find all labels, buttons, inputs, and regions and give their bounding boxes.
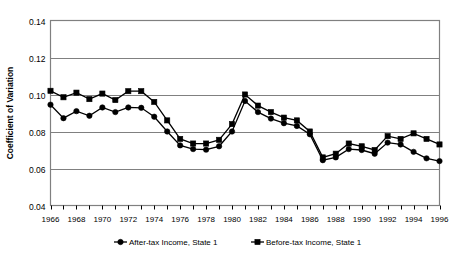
x-axis-tick-label: 1970 <box>93 215 111 224</box>
data-point-marker <box>126 89 131 94</box>
data-point-marker <box>346 146 351 151</box>
data-point-marker <box>437 142 442 147</box>
x-axis-ticks <box>52 206 441 210</box>
data-point-marker <box>268 109 273 114</box>
y-axis-tick-label: 0.12 <box>29 54 46 64</box>
y-axis-tick-label: 0.10 <box>29 91 46 101</box>
series-1 <box>48 98 442 164</box>
data-point-marker <box>229 122 234 127</box>
chart-legend: After-tax Income, State 1Before-tax Inco… <box>114 238 362 247</box>
x-axis-tick-label: 1974 <box>145 215 163 224</box>
legend-item-2: Before-tax Income, State 1 <box>251 238 362 247</box>
y-axis-title: Coefficient of Variation <box>5 67 15 160</box>
plot-frame <box>51 21 440 206</box>
data-point-marker <box>203 147 208 152</box>
data-point-marker <box>242 92 247 97</box>
x-axis-tick-label: 1972 <box>119 215 137 224</box>
legend-item-1: After-tax Income, State 1 <box>114 238 218 247</box>
data-point-marker <box>177 143 182 148</box>
x-axis-tick-label: 1968 <box>68 215 86 224</box>
data-point-marker <box>255 109 260 114</box>
y-axis-tick-label: 0.14 <box>29 17 46 27</box>
data-point-marker <box>398 136 403 141</box>
chart-plot-area: 0.140.120.100.080.060.04 196619681970197… <box>0 0 457 264</box>
data-point-marker <box>190 146 195 151</box>
data-point-marker <box>191 141 196 146</box>
data-point-marker <box>229 129 234 134</box>
x-axis-tick-label: 1980 <box>223 215 241 224</box>
data-point-marker <box>165 118 170 123</box>
data-point-marker <box>255 103 260 108</box>
x-axis-tick-label: 1996 <box>431 215 449 224</box>
data-point-marker <box>152 99 157 104</box>
data-point-marker <box>385 134 390 139</box>
gridlines-group <box>51 59 440 170</box>
data-point-marker <box>61 115 66 120</box>
data-point-marker <box>398 142 403 147</box>
data-point-marker <box>126 105 131 110</box>
data-series-layer <box>48 88 442 164</box>
data-point-marker <box>113 109 118 114</box>
data-point-marker <box>139 89 144 94</box>
line-chart-svg: 0.140.120.100.080.060.04 196619681970197… <box>0 0 457 264</box>
x-axis-tick-label: 1992 <box>379 215 397 224</box>
chart-container: 0.140.120.100.080.060.04 196619681970197… <box>0 0 457 264</box>
data-point-marker <box>411 131 416 136</box>
data-point-marker <box>113 97 118 102</box>
data-point-marker <box>437 158 442 163</box>
data-point-marker <box>61 95 66 100</box>
y-axis-tick-label: 0.04 <box>29 202 46 212</box>
data-point-marker <box>307 129 312 134</box>
x-axis-tick-label: 1994 <box>405 215 423 224</box>
x-axis-tick-labels: 1966196819701972197419761978198019821984… <box>42 215 449 224</box>
data-point-marker <box>294 118 299 123</box>
y-axis-tick-labels: 0.140.120.100.080.060.04 <box>29 17 46 212</box>
data-point-marker <box>424 156 429 161</box>
data-point-marker <box>100 105 105 110</box>
x-axis-tick-label: 1966 <box>42 215 60 224</box>
data-point-marker <box>424 136 429 141</box>
data-point-marker <box>74 90 79 95</box>
legend-marker <box>118 239 123 244</box>
data-point-marker <box>74 108 79 113</box>
data-point-marker <box>165 129 170 134</box>
x-axis-tick-label: 1986 <box>301 215 319 224</box>
x-axis-tick-label: 1976 <box>171 215 189 224</box>
data-point-marker <box>281 120 286 125</box>
series-line <box>51 101 440 161</box>
data-point-marker <box>385 140 390 145</box>
legend-label: Before-tax Income, State 1 <box>266 238 362 247</box>
data-point-marker <box>216 137 221 142</box>
data-point-marker <box>411 149 416 154</box>
data-point-marker <box>204 141 209 146</box>
y-axis-tick-label: 0.08 <box>29 128 46 138</box>
data-point-marker <box>281 115 286 120</box>
data-point-marker <box>139 105 144 110</box>
data-point-marker <box>178 136 183 141</box>
legend-marker <box>255 239 260 244</box>
data-point-marker <box>359 144 364 149</box>
data-point-marker <box>152 114 157 119</box>
data-point-marker <box>294 123 299 128</box>
data-point-marker <box>87 113 92 118</box>
x-axis-tick-label: 1984 <box>275 215 293 224</box>
data-point-marker <box>346 141 351 146</box>
data-point-marker <box>320 155 325 160</box>
data-point-marker <box>216 144 221 149</box>
x-axis-tick-label: 1982 <box>249 215 267 224</box>
legend-label: After-tax Income, State 1 <box>129 238 218 247</box>
data-point-marker <box>372 147 377 152</box>
data-point-marker <box>48 88 53 93</box>
x-axis-tick-label: 1978 <box>197 215 215 224</box>
data-point-marker <box>268 116 273 121</box>
x-axis-tick-label: 1988 <box>327 215 345 224</box>
data-point-marker <box>87 97 92 102</box>
y-axis-tick-label: 0.06 <box>29 165 46 175</box>
data-point-marker <box>100 91 105 96</box>
data-point-marker <box>333 151 338 156</box>
x-axis-tick-label: 1990 <box>353 215 371 224</box>
data-point-marker <box>48 102 53 107</box>
